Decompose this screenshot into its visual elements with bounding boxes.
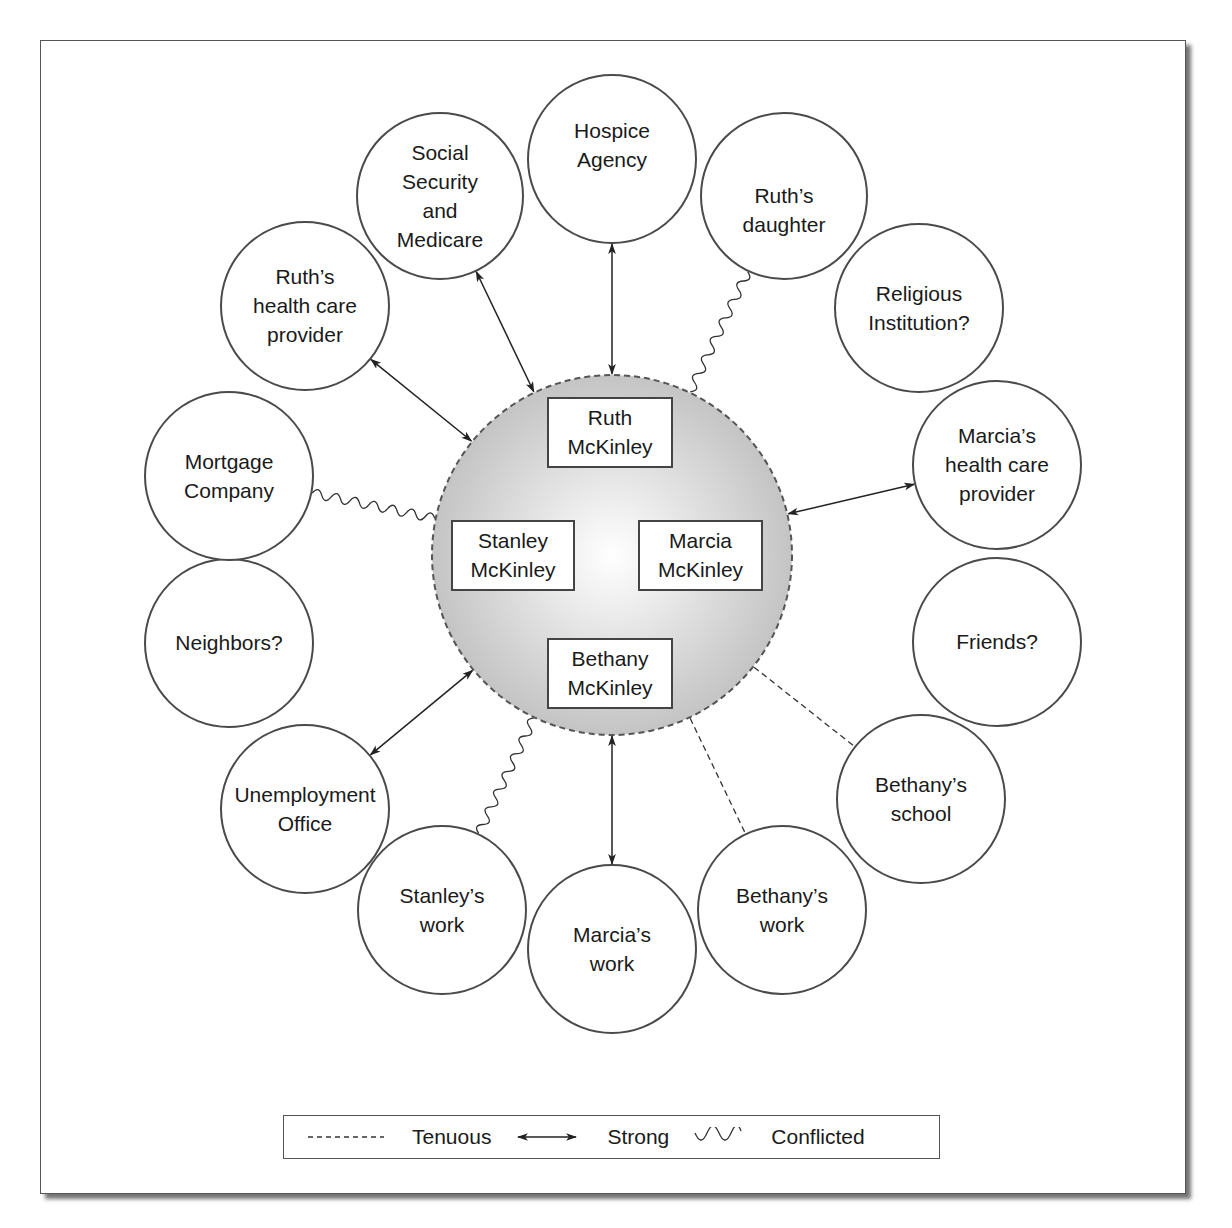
legend-label: Conflicted (771, 1125, 864, 1149)
member-label: McKinley (567, 435, 653, 458)
dashed-line-icon (308, 1132, 384, 1142)
member-label: Ruth (588, 406, 632, 429)
node-label: Medicare (397, 228, 483, 251)
family-member-marcia[interactable]: MarciaMcKinley (639, 521, 762, 590)
node-label: work (589, 952, 635, 975)
node-label: Marcia’s (573, 923, 651, 946)
node-label: provider (959, 482, 1035, 505)
connection-conflicted-mortgage-company (312, 490, 435, 520)
node-label: Social (411, 141, 468, 164)
node-label: Ruth’s (754, 184, 813, 207)
double-arrow-icon (515, 1130, 579, 1144)
system-node-social-security[interactable]: SocialSecurityandMedicare (357, 113, 523, 279)
family-member-ruth[interactable]: RuthMcKinley (548, 398, 672, 467)
legend: Tenuous Strong Conflicted (283, 1115, 940, 1159)
node-label: Bethany’s (736, 884, 828, 907)
family-member-stanley[interactable]: StanleyMcKinley (452, 521, 574, 590)
node-label: Marcia’s (958, 424, 1036, 447)
member-label: McKinley (470, 558, 556, 581)
legend-label: Strong (607, 1125, 669, 1149)
system-node-mortgage-company[interactable]: MortgageCompany (145, 392, 313, 560)
connection-strong-unemployment-office (370, 670, 472, 754)
system-node-ruths-health-care[interactable]: Ruth’shealth careprovider (221, 222, 389, 390)
system-node-stanleys-work[interactable]: Stanley’swork (358, 826, 526, 994)
connection-strong-ruths-health-care (371, 360, 471, 441)
wavy-line-icon (693, 1127, 743, 1147)
connection-strong-marcias-health-care (788, 484, 914, 513)
node-label: health care (253, 294, 357, 317)
system-node-friends[interactable]: Friends? (913, 558, 1081, 726)
system-node-hospice[interactable]: HospiceAgency (528, 75, 696, 243)
connection-tenuous-bethanys-work (690, 718, 745, 833)
node-label: Friends? (956, 630, 1038, 653)
legend-label: Tenuous (412, 1125, 491, 1149)
node-label: daughter (743, 213, 826, 236)
member-label: Bethany (571, 647, 649, 670)
member-label: McKinley (658, 558, 744, 581)
legend-item-strong: Strong (515, 1125, 693, 1149)
connection-strong-social-security (476, 272, 533, 392)
family-household-circle: RuthMcKinleyStanleyMcKinleyMarciaMcKinle… (432, 375, 792, 735)
node-label: Mortgage (185, 450, 274, 473)
legend-item-conflicted: Conflicted (693, 1125, 888, 1149)
node-label: Unemployment (234, 783, 375, 806)
node-label: Bethany’s (875, 773, 967, 796)
system-node-bethanys-school[interactable]: Bethany’sschool (837, 715, 1005, 883)
node-label: work (419, 913, 465, 936)
node-label: school (891, 802, 952, 825)
node-label: Company (184, 479, 274, 502)
node-label: Ruth’s (275, 265, 334, 288)
member-label: Stanley (478, 529, 549, 552)
node-label: Stanley’s (400, 884, 485, 907)
member-label: McKinley (567, 676, 653, 699)
node-label: Institution? (868, 311, 970, 334)
system-node-ruths-daughter[interactable]: Ruth’sdaughter (701, 113, 867, 279)
legend-item-tenuous: Tenuous (308, 1125, 515, 1149)
system-node-neighbors[interactable]: Neighbors? (145, 559, 313, 727)
node-label: health care (945, 453, 1049, 476)
node-label: Religious (876, 282, 962, 305)
system-node-marcias-work[interactable]: Marcia’swork (528, 865, 696, 1033)
node-label: Neighbors? (175, 631, 282, 654)
system-node-unemployment-office[interactable]: UnemploymentOffice (221, 725, 389, 893)
node-label: and (422, 199, 457, 222)
connection-conflicted-ruths-daughter (690, 272, 750, 392)
system-node-religious-institution[interactable]: ReligiousInstitution? (835, 224, 1003, 392)
ecomap-diagram: RuthMcKinleyStanleyMcKinleyMarciaMcKinle… (0, 0, 1232, 1228)
node-label: provider (267, 323, 343, 346)
connection-tenuous-bethanys-school (754, 667, 854, 746)
system-node-marcias-health-care[interactable]: Marcia’shealth careprovider (913, 381, 1081, 549)
node-label: work (759, 913, 805, 936)
node-label: Hospice (574, 119, 650, 142)
system-node-bethanys-work[interactable]: Bethany’swork (698, 826, 866, 994)
family-member-bethany[interactable]: BethanyMcKinley (548, 639, 672, 708)
member-label: Marcia (669, 529, 732, 552)
node-label: Office (278, 812, 332, 835)
node-label: Security (402, 170, 478, 193)
node-label: Agency (577, 148, 648, 171)
connection-conflicted-stanleys-work (476, 718, 533, 833)
